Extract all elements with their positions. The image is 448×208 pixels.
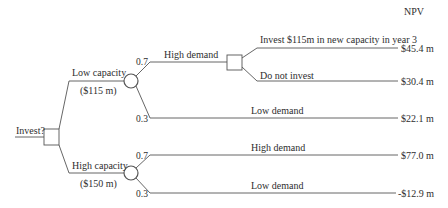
branch-invest [242,48,398,58]
high-capacity-label: High capacity [72,160,128,171]
hc-high-demand-npv: $77.0 m [401,150,434,161]
low-capacity-label: Low capacity [72,67,126,78]
lc-low-demand-npv: $22.1 m [401,113,434,124]
branch-lc-high-demand [136,62,227,76]
invest-label: Invest $115m in new capacity in year 3 [260,34,417,45]
hc-low-demand-prob: 0.3 [136,189,148,200]
invest-npv: $45.4 m [401,43,434,54]
high-capacity-cost: ($150 m) [80,178,117,189]
do-not-invest-npv: $30.4 m [401,76,434,87]
lc-low-demand-prob: 0.3 [136,114,148,125]
secondary-decision-node [227,55,242,70]
hc-low-demand-npv: -$12.9 m [398,188,434,199]
hc-high-demand-prob: 0.7 [136,151,148,162]
root-decision-node [44,129,59,145]
do-not-invest-label: Do not invest [260,70,314,81]
decision-tree-lines [0,0,448,208]
lc-high-demand-prob: 0.7 [136,57,148,68]
low-capacity-cost: ($115 m) [80,85,117,96]
npv-header: NPV [404,6,424,17]
lc-high-demand-label: High demand [164,49,218,60]
hc-low-demand-label: Low demand [251,180,304,191]
lc-low-demand-label: Low demand [251,105,304,116]
hc-high-demand-label: High demand [251,142,305,153]
branch-hc-high-demand [136,155,398,168]
root-label: Invest? [16,125,45,136]
